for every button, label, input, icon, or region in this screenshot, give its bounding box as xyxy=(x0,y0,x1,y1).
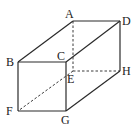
rectangular-prism-diagram: A D B C E H F G xyxy=(0,0,139,125)
vertex-label-D: D xyxy=(122,14,131,28)
vertex-label-F: F xyxy=(6,104,13,118)
edge-CD xyxy=(66,21,120,62)
vertex-label-H: H xyxy=(122,64,131,78)
vertex-label-G: G xyxy=(61,113,70,125)
vertex-label-A: A xyxy=(65,7,74,21)
vertex-label-B: B xyxy=(6,55,14,69)
vertex-label-E: E xyxy=(67,72,74,86)
vertex-label-C: C xyxy=(57,49,65,63)
edge-EF-hidden xyxy=(18,71,73,111)
